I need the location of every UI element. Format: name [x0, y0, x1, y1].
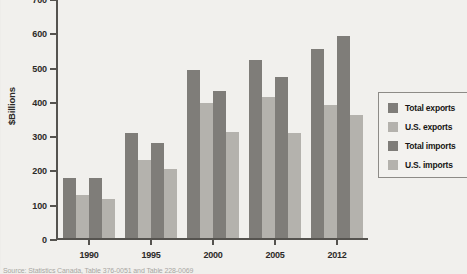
bar-group-2005: 2005 — [244, 0, 306, 238]
bar-2005-total-exports — [249, 60, 262, 238]
y-tick-200 — [50, 170, 57, 172]
y-tick-label-700: 700 — [32, 0, 47, 5]
y-tick-label-100: 100 — [32, 201, 47, 211]
y-tick-label-600: 600 — [32, 29, 47, 39]
legend-item-us-exports: U.S. exports — [388, 117, 467, 136]
bar-1995-total-imports — [151, 143, 164, 238]
bar-2005-total-imports — [275, 77, 288, 238]
y-tick-600 — [50, 33, 57, 35]
bar-1990-u-s-imports — [102, 199, 115, 238]
y-axis-title: $Billions — [6, 87, 17, 125]
bar-2000-total-imports — [213, 91, 226, 238]
bar-1990-total-exports — [63, 178, 76, 238]
y-tick-700 — [50, 0, 57, 1]
legend-item-us-imports: U.S. imports — [388, 155, 467, 174]
bar-2000-total-exports — [187, 70, 200, 238]
bar-2005-u-s-imports — [288, 133, 301, 238]
bar-group-1990: 1990 — [58, 0, 120, 238]
y-tick-label-0: 0 — [42, 235, 47, 245]
legend-item-total-exports: Total exports — [388, 98, 467, 117]
x-tick-label-1995: 1995 — [120, 250, 182, 260]
legend-label-total-imports: Total imports — [405, 141, 456, 151]
x-tick-2000 — [212, 239, 214, 245]
y-tick-100 — [50, 205, 57, 207]
x-tick-label-2000: 2000 — [182, 250, 244, 260]
y-tick-400 — [50, 102, 57, 104]
legend-label-us-imports: U.S. imports — [405, 160, 453, 170]
bar-1995-u-s-exports — [138, 160, 151, 238]
y-tick-500 — [50, 68, 57, 70]
x-tick-1995 — [150, 239, 152, 245]
bar-2000-u-s-imports — [226, 132, 239, 238]
bar-2012-total-imports — [337, 36, 350, 238]
legend-swatch-total-imports — [388, 141, 398, 151]
plot-area: 0100200300400500600700 19901995200020052… — [56, 8, 368, 240]
bar-2005-u-s-exports — [262, 97, 275, 238]
bar-group-2012: 2012 — [306, 0, 368, 238]
bar-2012-total-exports — [311, 49, 324, 238]
x-tick-label-2012: 2012 — [306, 250, 368, 260]
y-tick-label-300: 300 — [32, 132, 47, 142]
legend-swatch-us-imports — [388, 160, 398, 170]
y-tick-0 — [50, 239, 57, 241]
x-tick-2012 — [336, 239, 338, 245]
x-tick-2005 — [274, 239, 276, 245]
legend-swatch-total-exports — [388, 103, 398, 113]
bar-group-2000: 2000 — [182, 0, 244, 238]
y-tick-label-200: 200 — [32, 166, 47, 176]
x-tick-label-1990: 1990 — [58, 250, 120, 260]
bar-1990-total-imports — [89, 178, 102, 238]
bar-2012-u-s-imports — [350, 115, 363, 238]
legend-swatch-us-exports — [388, 122, 398, 132]
bar-1995-u-s-imports — [164, 169, 177, 238]
bar-groups: 19901995200020052012 — [58, 0, 368, 238]
legend-label-us-exports: U.S. exports — [405, 122, 452, 132]
legend-item-total-imports: Total imports — [388, 136, 467, 155]
bar-2000-u-s-exports — [200, 103, 213, 238]
y-tick-label-500: 500 — [32, 64, 47, 74]
legend-label-total-exports: Total exports — [405, 103, 455, 113]
bar-group-1995: 1995 — [120, 0, 182, 238]
bar-2012-u-s-exports — [324, 105, 337, 238]
chart-legend: Total exports U.S. exports Total imports… — [378, 92, 467, 178]
bar-1990-u-s-exports — [76, 195, 89, 238]
y-tick-label-400: 400 — [32, 98, 47, 108]
x-tick-label-2005: 2005 — [244, 250, 306, 260]
bar-1995-total-exports — [125, 133, 138, 238]
x-tick-1990 — [88, 239, 90, 245]
source-note: Source: Statistics Canada, Table 376-005… — [3, 267, 193, 274]
y-tick-300 — [50, 136, 57, 138]
